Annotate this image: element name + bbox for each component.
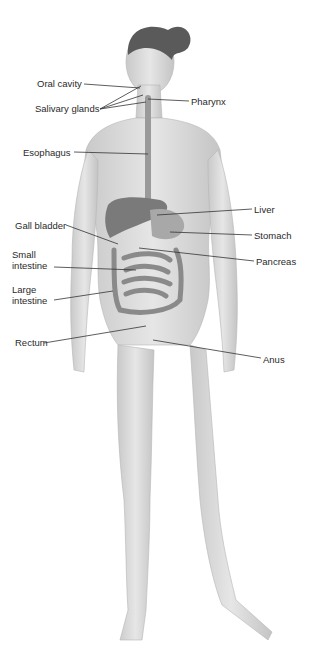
esophagus-organ <box>145 95 151 215</box>
label-pharynx: Pharynx <box>191 96 226 107</box>
label-large-intestine-line2: intestine <box>12 295 47 306</box>
label-small-intestine: Small intestine <box>12 249 47 271</box>
label-esophagus: Esophagus <box>23 147 71 158</box>
body-silhouette <box>71 30 272 640</box>
label-large-intestine: Large intestine <box>12 284 47 306</box>
label-small-intestine-line1: Small <box>12 249 47 260</box>
label-small-intestine-line2: intestine <box>12 260 47 271</box>
label-anus: Anus <box>263 354 285 365</box>
label-large-intestine-line1: Large <box>12 284 47 295</box>
label-salivary-glands: Salivary glands <box>35 103 99 114</box>
label-gall-bladder: Gall bladder <box>15 220 66 231</box>
label-liver: Liver <box>254 204 275 215</box>
label-oral-cavity: Oral cavity <box>37 78 82 89</box>
label-pancreas: Pancreas <box>256 256 296 267</box>
label-stomach: Stomach <box>254 230 292 241</box>
anatomy-figure <box>0 0 309 662</box>
label-rectum: Rectum <box>15 337 48 348</box>
